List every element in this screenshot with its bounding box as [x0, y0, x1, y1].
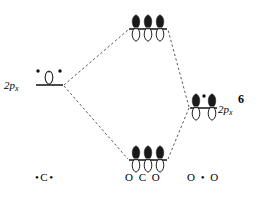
- orbital-label-left-2px: 2px: [4, 80, 19, 93]
- orbital-bottom-1: [132, 146, 140, 172]
- orbital-left-1: [45, 71, 53, 85]
- level-bottom-molecular: [129, 146, 167, 172]
- orbital-lobe-hollow: [132, 29, 140, 42]
- orbital-lobe-filled: [156, 15, 164, 28]
- orbital-lobe-filled: [132, 146, 140, 159]
- orbital-lobe-hollow: [156, 29, 164, 42]
- orbital-label-right-subscript: x: [229, 108, 233, 117]
- orbital-label-right-2px: 2px: [218, 104, 233, 117]
- orbital-lobe-filled: [144, 146, 152, 159]
- level-right-atomic: [190, 94, 217, 120]
- connector-right-to-bottom: [168, 108, 189, 159]
- orbital-label-left-main: 2p: [4, 79, 15, 91]
- connector-right-to-top: [168, 30, 189, 107]
- mo-diagram-figure: 2px 2px •C• O C O O • O 6: [0, 0, 266, 199]
- level-left-atomic: [36, 69, 63, 85]
- connector-left-to-top: [64, 30, 128, 85]
- orbital-right-1: [192, 94, 200, 120]
- correlation-lines-group: [64, 30, 189, 159]
- orbital-lobe-filled: [144, 15, 152, 28]
- orbital-lobe-hollow: [45, 72, 53, 85]
- mo-diagram-canvas: [0, 0, 266, 199]
- orbital-lobe-hollow: [144, 29, 152, 42]
- orbital-top-2: [144, 15, 152, 41]
- orbital-lobe-filled: [208, 94, 216, 107]
- level-top-molecular: [129, 15, 167, 41]
- species-label-co2: O C O: [125, 172, 161, 183]
- orbital-lobe-hollow: [208, 108, 216, 121]
- electron-dot-right-1: [202, 94, 205, 97]
- figure-number: 6: [238, 93, 244, 105]
- connector-left-to-bottom: [64, 86, 128, 159]
- orbital-top-1: [132, 15, 140, 41]
- species-label-o2: O • O: [187, 172, 220, 183]
- orbital-label-left-subscript: x: [15, 84, 19, 93]
- orbital-bottom-3: [156, 146, 164, 172]
- orbital-lobe-filled: [192, 94, 200, 107]
- species-label-carbon: •C•: [35, 172, 55, 183]
- electron-dot-left-1: [36, 69, 39, 72]
- orbital-label-right-main: 2p: [218, 103, 229, 115]
- orbital-top-3: [156, 15, 164, 41]
- orbital-right-2: [208, 94, 216, 120]
- electron-dot-left-2: [58, 69, 61, 72]
- orbital-lobe-filled: [132, 15, 140, 28]
- orbital-lobe-hollow: [192, 108, 200, 121]
- orbital-bottom-2: [144, 146, 152, 172]
- orbital-lobe-filled: [156, 146, 164, 159]
